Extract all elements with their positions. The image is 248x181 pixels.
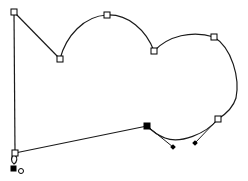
path-node-selected[interactable] xyxy=(144,123,150,129)
handle-line-left xyxy=(147,126,173,147)
path-node[interactable] xyxy=(12,150,18,156)
path-node[interactable] xyxy=(151,48,157,54)
path-node[interactable] xyxy=(211,34,217,40)
handle-line-right xyxy=(195,119,218,143)
path-segment-arc-1[interactable] xyxy=(60,15,154,59)
path-segment-arc-2[interactable] xyxy=(154,34,237,119)
path-segment-bottom-line[interactable] xyxy=(15,126,147,153)
path-node[interactable] xyxy=(104,12,110,18)
path-node[interactable] xyxy=(11,9,17,15)
path-segment-bottom-curve[interactable] xyxy=(147,119,218,140)
path-segment-diagonal[interactable] xyxy=(14,12,60,59)
path-segment-left-vertical[interactable] xyxy=(14,12,15,153)
path-start-marker[interactable] xyxy=(11,166,16,171)
path-node[interactable] xyxy=(215,116,221,122)
path-end-marker[interactable] xyxy=(19,169,24,174)
drawing-canvas[interactable] xyxy=(0,0,248,181)
path-node[interactable] xyxy=(57,56,63,62)
vector-path-svg[interactable] xyxy=(0,0,248,181)
